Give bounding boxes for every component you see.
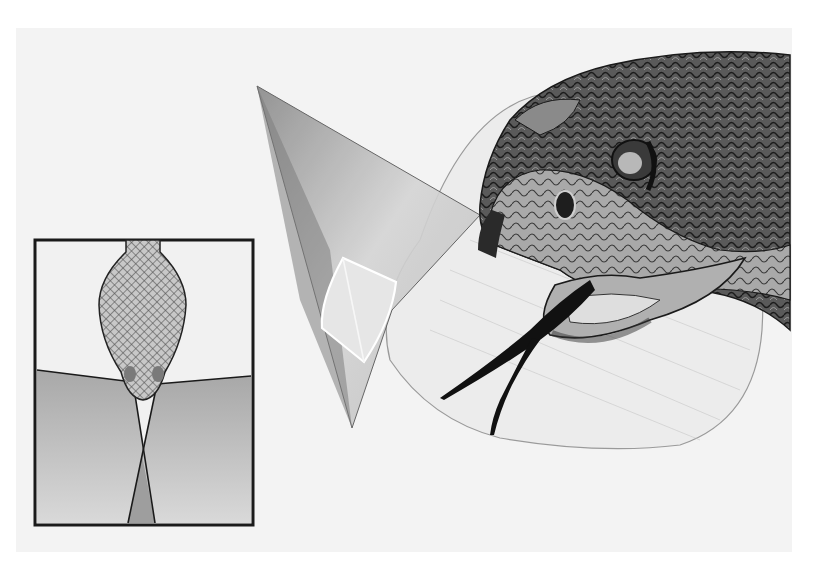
heat-pit-icon bbox=[555, 191, 575, 219]
inset-diagram bbox=[35, 240, 253, 525]
inset-right-pit-icon bbox=[152, 366, 164, 382]
inset-left-pit-icon bbox=[124, 366, 136, 382]
main-illustration bbox=[257, 52, 790, 449]
snake-illustration bbox=[0, 0, 820, 565]
